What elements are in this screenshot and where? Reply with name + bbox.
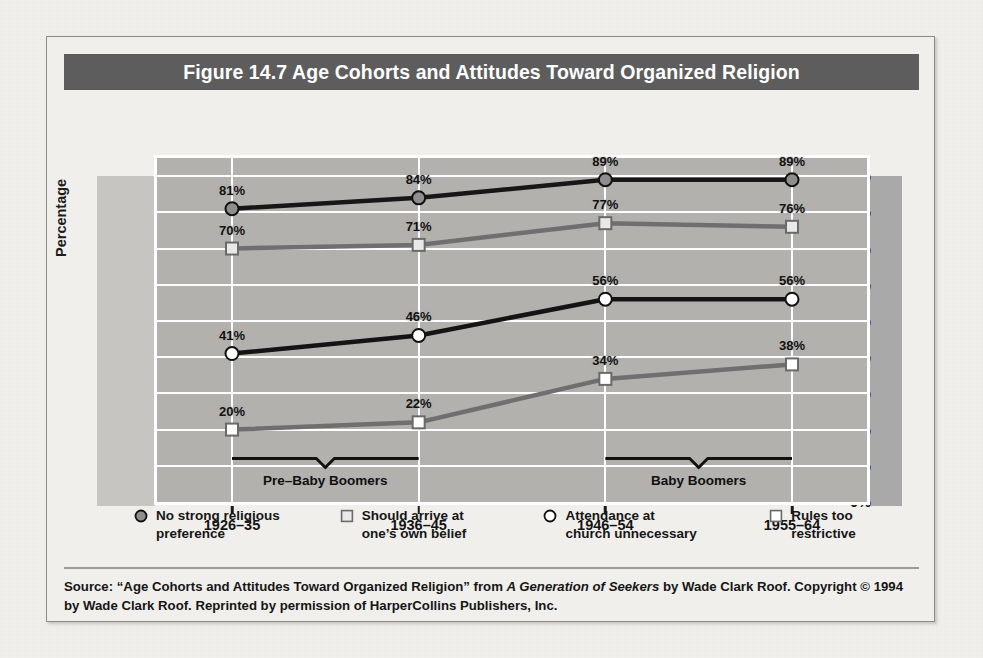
legend-label: Attendance at church unnecessary — [565, 507, 696, 543]
data-point-label: 81% — [219, 183, 245, 198]
data-point-label: 89% — [592, 154, 618, 169]
data-point-label: 56% — [779, 273, 805, 288]
data-point-label: 71% — [406, 219, 432, 234]
data-point-label: 22% — [406, 396, 432, 411]
data-point-marker — [786, 358, 798, 370]
data-point-marker — [226, 243, 238, 255]
series-line — [232, 180, 792, 209]
cohort-bracket — [232, 459, 419, 468]
data-point-marker — [412, 191, 425, 204]
data-point-marker — [786, 293, 799, 306]
figure-title: Figure 14.7 Age Cohorts and Attitudes To… — [183, 61, 800, 84]
legend-label: Rules too restrictive — [791, 507, 856, 543]
series-layer — [157, 158, 867, 502]
data-point-label: 20% — [219, 404, 245, 419]
data-point-marker — [226, 202, 239, 215]
plot-area: Pre–Baby BoomersBaby Boomers 81%84%89%89… — [154, 155, 870, 505]
figure-frame: Figure 14.7 Age Cohorts and Attitudes To… — [46, 36, 935, 622]
y-axis-title: Percentage — [53, 237, 69, 257]
data-point-label: 46% — [406, 309, 432, 324]
page-background: Figure 14.7 Age Cohorts and Attitudes To… — [0, 0, 983, 658]
data-point-marker — [226, 424, 238, 436]
chart-region: Percentage 0%10%20%30%40%50%60%70%80%90%… — [47, 97, 933, 517]
legend-circle-icon — [543, 509, 557, 527]
data-point-label: 56% — [592, 273, 618, 288]
data-point-label: 84% — [406, 172, 432, 187]
source-note: Source: “Age Cohorts and Attitudes Towar… — [64, 577, 922, 615]
source-line-1-a: Source: “Age Cohorts and Attitudes Towar… — [64, 579, 507, 594]
series-line — [232, 299, 792, 353]
cohort-bracket-label: Baby Boomers — [651, 473, 746, 488]
series-line — [232, 223, 792, 248]
data-point-label: 38% — [779, 338, 805, 353]
cohort-bracket — [605, 459, 792, 468]
legend-item[interactable]: Rules too restrictive — [769, 507, 919, 543]
data-point-marker — [786, 173, 799, 186]
data-point-marker — [413, 239, 425, 251]
data-point-marker — [599, 173, 612, 186]
data-point-marker — [226, 347, 239, 360]
data-point-marker — [412, 329, 425, 342]
chart-legend: No strong religious preferenceShould arr… — [64, 507, 919, 543]
data-point-label: 76% — [779, 201, 805, 216]
data-point-label: 34% — [592, 353, 618, 368]
data-point-marker — [786, 221, 798, 233]
legend-label: No strong religious preference — [156, 507, 280, 543]
source-line-1-b: by Wade Clark Roof. Copyright — [659, 579, 856, 594]
data-point-label: 41% — [219, 328, 245, 343]
cohort-bracket-label: Pre–Baby Boomers — [263, 473, 388, 488]
y-axis-label-band — [97, 176, 155, 506]
legend-square-icon — [769, 509, 783, 527]
legend-circle-icon — [134, 509, 148, 527]
data-point-label: 89% — [779, 154, 805, 169]
data-point-marker — [413, 416, 425, 428]
source-book-title: A Generation of Seekers — [507, 579, 660, 594]
data-point-label: 77% — [592, 197, 618, 212]
figure-title-bar: Figure 14.7 Age Cohorts and Attitudes To… — [64, 54, 919, 90]
legend-label: Should arrive at one’s own belief — [362, 507, 467, 543]
legend-square-icon — [340, 509, 354, 527]
data-point-marker — [599, 217, 611, 229]
data-point-marker — [599, 293, 612, 306]
legend-item[interactable]: Attendance at church unnecessary — [543, 507, 769, 543]
decorative-side-strip — [870, 176, 902, 506]
plot-inner: Pre–Baby BoomersBaby Boomers 81%84%89%89… — [157, 158, 867, 502]
data-point-label: 70% — [219, 223, 245, 238]
data-point-marker — [599, 373, 611, 385]
legend-item[interactable]: Should arrive at one’s own belief — [340, 507, 544, 543]
legend-item[interactable]: No strong religious preference — [134, 507, 340, 543]
source-divider — [64, 567, 919, 569]
series-line — [232, 364, 792, 429]
